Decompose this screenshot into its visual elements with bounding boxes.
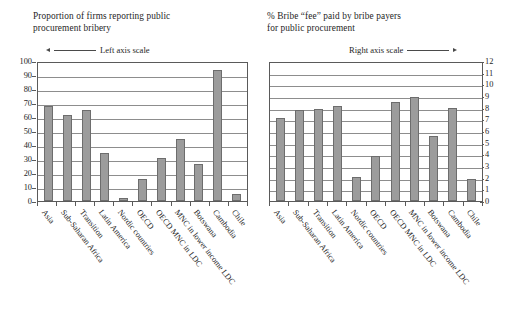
y-axis-tick-mark: [32, 146, 36, 147]
bar: [157, 158, 166, 201]
y-axis-tick-label: 0: [485, 197, 514, 207]
y-axis-tick-label: 5: [485, 139, 514, 149]
annotation-leader-line: [54, 50, 96, 51]
y-axis-tick-label: 9: [485, 92, 514, 102]
y-axis-tick-mark: [32, 160, 36, 161]
y-axis-tick-label: 1: [485, 185, 514, 195]
y-axis-tick-label: 70: [2, 99, 32, 109]
right-chart-panel: % Bribe “fee” paid by bribe payers for p…: [257, 0, 514, 324]
x-label-slot: Latin America: [333, 206, 342, 318]
right-chart-x-labels: AsiaSub-Saharan AfricaTransitionLatin Am…: [269, 206, 483, 318]
category-label: Asia: [40, 208, 56, 225]
right-chart-y-axis: 0123456789101112: [479, 62, 513, 202]
y-axis-tick-mark: [32, 174, 36, 175]
y-axis-tick-label: 80: [2, 85, 32, 95]
y-axis-tick-mark: [32, 104, 36, 105]
y-axis-tick-label: 4: [485, 150, 514, 160]
bar: [467, 179, 476, 201]
left-chart-bars: [38, 63, 247, 201]
left-chart-y-axis: 0102030405060708090100: [2, 62, 36, 202]
y-axis-tick-label: 2: [485, 174, 514, 184]
arrow-left-icon: [46, 48, 50, 52]
y-axis-tick-label: 3: [485, 162, 514, 172]
arrow-right-icon: [453, 48, 457, 52]
bar: [429, 136, 438, 201]
two-panel-bar-chart-figure: Proportion of firms reporting public pro…: [0, 0, 514, 324]
bar: [138, 179, 147, 201]
x-label-slot: MNC in lower income LDC: [410, 206, 419, 318]
x-label-slot: Cambodia: [214, 206, 223, 318]
y-axis-tick-label: 60: [2, 113, 32, 123]
x-label-slot: Chile: [468, 206, 477, 318]
x-label-slot: Nordic countries: [352, 206, 361, 318]
y-axis-tick-mark: [32, 202, 36, 203]
x-label-slot: Sub-Saharan Africa: [294, 206, 303, 318]
category-label: Chile: [230, 208, 248, 228]
y-axis-tick-label: 11: [485, 69, 514, 79]
y-axis-tick-label: 6: [485, 127, 514, 137]
category-label: Asia: [272, 208, 288, 225]
x-label-slot: Nordic countries: [119, 206, 128, 318]
y-axis-tick-label: 8: [485, 104, 514, 114]
x-label-slot: Sub-Saharan Africa: [62, 206, 71, 318]
x-label-slot: Chile: [233, 206, 242, 318]
bar: [232, 194, 241, 201]
annotation-leader-line: [407, 50, 449, 51]
x-label-slot: Asia: [275, 206, 284, 318]
left-axis-scale-annotation: Left axis scale: [46, 44, 150, 56]
x-label-slot: Botswana: [195, 206, 204, 318]
y-axis-tick-label: 10: [485, 80, 514, 90]
x-label-slot: Asia: [43, 206, 52, 318]
bar: [371, 156, 380, 201]
y-axis-tick-label: 50: [2, 127, 32, 137]
y-axis-tick-label: 7: [485, 115, 514, 125]
bar: [391, 102, 400, 201]
bar: [100, 153, 109, 201]
bar: [176, 139, 185, 201]
bar: [352, 177, 361, 202]
y-axis-tick-mark: [32, 62, 36, 63]
bar: [194, 164, 203, 201]
bar: [213, 70, 222, 201]
left-axis-scale-label: Left axis scale: [100, 45, 150, 55]
bar: [295, 110, 304, 201]
x-label-slot: Botswana: [429, 206, 438, 318]
category-label: Chile: [465, 208, 483, 228]
category-label: OECD: [368, 208, 389, 231]
y-axis-tick-mark: [32, 188, 36, 189]
bar: [448, 108, 457, 201]
category-label: OECD: [135, 208, 156, 231]
left-chart-title: Proportion of firms reporting public pro…: [33, 10, 170, 34]
y-axis-tick-mark: [32, 76, 36, 77]
x-label-slot: Transition: [314, 206, 323, 318]
right-axis-scale-annotation: Right axis scale: [349, 44, 457, 56]
x-label-slot: OECD: [371, 206, 380, 318]
y-axis-tick-label: 20: [2, 169, 32, 179]
y-axis-tick-label: 10: [2, 183, 32, 193]
y-axis-tick-label: 40: [2, 141, 32, 151]
x-label-slot: OECD: [138, 206, 147, 318]
right-chart-bars: [270, 63, 482, 201]
y-axis-tick-label: 12: [485, 57, 514, 67]
left-chart-panel: Proportion of firms reporting public pro…: [0, 0, 257, 324]
y-axis-tick-label: 90: [2, 71, 32, 81]
x-label-slot: Latin America: [100, 206, 109, 318]
bar: [63, 115, 72, 201]
bar: [119, 198, 128, 202]
y-axis-tick-label: 0: [2, 197, 32, 207]
right-chart-title: % Bribe “fee” paid by bribe payers for p…: [267, 10, 401, 34]
bar: [333, 106, 342, 201]
x-label-slot: MNC in lower income LDC: [176, 206, 185, 318]
left-chart-plot-area: [37, 62, 248, 202]
x-label-slot: OECD MNC in LDC: [157, 206, 166, 318]
bar: [410, 97, 419, 201]
y-axis-tick-mark: [32, 90, 36, 91]
y-axis-tick-label: 30: [2, 155, 32, 165]
right-chart-plot-area: [269, 62, 483, 202]
bar: [276, 118, 285, 201]
left-chart-x-labels: AsiaSub-Saharan AfricaTransitionLatin Am…: [37, 206, 248, 318]
x-label-slot: Transition: [81, 206, 90, 318]
bar: [314, 109, 323, 201]
bar: [44, 106, 53, 201]
bar: [82, 110, 91, 201]
